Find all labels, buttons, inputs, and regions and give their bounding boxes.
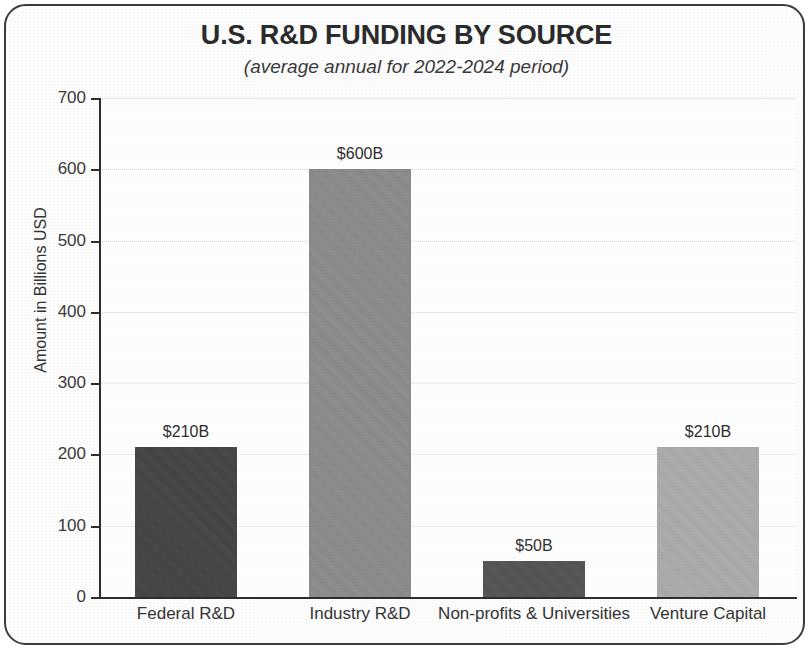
plot-area [99,98,795,597]
bar[interactable] [657,447,759,597]
bar-value-label: $210B [638,423,778,441]
gridline [99,312,795,313]
y-axis-tick [91,241,100,243]
bar[interactable] [135,447,237,597]
gridline [99,241,795,242]
y-axis-tick [91,312,100,314]
bar-value-label: $210B [116,423,256,441]
y-axis-tick [91,454,100,456]
bar-texture [483,561,585,597]
y-axis-tick [91,98,100,100]
chart-subtitle: (average annual for 2022-2024 period) [6,56,805,78]
chart-card: U.S. R&D FUNDING BY SOURCE (average annu… [4,4,805,645]
y-axis-tick-label: 200 [26,444,86,464]
gridline [99,383,795,384]
bar-value-label: $600B [290,145,430,163]
bar[interactable] [309,169,411,597]
gridline [99,98,795,99]
bar-texture [309,169,411,597]
x-axis-category-label: Venture Capital [588,604,805,624]
y-axis-tick-label: 700 [26,88,86,108]
bar-value-label: $50B [464,537,604,555]
y-axis-title: Amount in Billions USD [32,160,50,420]
y-axis-tick [91,383,100,385]
bar-texture [135,447,237,597]
bar[interactable] [483,561,585,597]
gridline [99,169,795,170]
y-axis-line [99,98,101,598]
y-axis-tick [91,526,100,528]
y-axis-tick-label: 100 [26,516,86,536]
bar-texture [657,447,759,597]
x-axis-line [99,597,797,599]
chart-title: U.S. R&D FUNDING BY SOURCE [6,20,805,51]
y-axis-tick [91,169,100,171]
y-axis-tick [91,597,100,599]
